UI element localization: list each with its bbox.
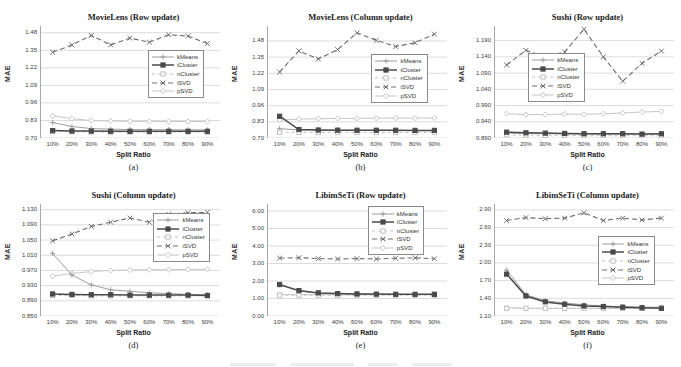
subplot-caption: (e) — [227, 338, 454, 350]
y-tick-label: 0.970 — [22, 267, 37, 273]
y-axis-label: MAE — [0, 204, 14, 316]
legend-item-kMeans: kMeans — [375, 57, 422, 66]
y-tick-label: 1.09 — [252, 86, 264, 92]
legend-marker-nCluster — [152, 70, 174, 78]
y-axis-label: MAE — [454, 26, 468, 138]
x-tick-label: 90% — [650, 319, 672, 325]
y-tick-column: 0.8900.9400.9901.0401.0901.1401.190 — [468, 26, 494, 138]
y-tick-label: 0.940 — [476, 118, 491, 124]
y-tick-label: 2.00 — [252, 278, 264, 284]
legend-item-iSVD: iSVD — [152, 78, 199, 87]
y-tick-label: 2.00 — [479, 259, 491, 265]
legend-marker-nCluster — [375, 74, 397, 82]
y-tick-label: 1.10 — [479, 313, 491, 319]
legend-item-kMeans: kMeans — [532, 56, 579, 65]
y-tick-label: 1.70 — [479, 277, 491, 283]
x-axis-label: Split Ratio — [0, 327, 227, 338]
plot-area: kMeansiClusternClusteriSVDpSVD — [40, 26, 220, 138]
legend-item-pSVD: pSVD — [602, 274, 649, 283]
legend-label: iCluster — [557, 65, 577, 73]
x-axis-label: Split Ratio — [454, 149, 681, 160]
legend-item-iCluster: iCluster — [602, 248, 649, 257]
x-tick-row: 10%20%30%40%50%60%70%80%90% — [494, 138, 681, 149]
legend-marker-iSVD — [157, 242, 179, 250]
y-tick-label: 2.90 — [479, 206, 491, 212]
subplot-f: LibimSeTi (Column update)MAE1.101.401.70… — [454, 182, 681, 360]
y-tick-label: 1.35 — [25, 47, 37, 53]
legend-marker-iCluster — [375, 66, 397, 74]
plot-area: kMeansiClusternClusteriSVDpSVD — [494, 204, 674, 316]
legend-label: pSVD — [182, 251, 198, 259]
legend-marker-iSVD — [152, 79, 174, 87]
subplot-b: MovieLens (Column update)MAE0.700.830.96… — [227, 4, 454, 182]
legend-marker-kMeans — [375, 57, 397, 65]
legend-item-iCluster: iCluster — [157, 225, 204, 234]
legend-item-nCluster: nCluster — [157, 233, 204, 242]
legend-marker-pSVD — [602, 274, 624, 282]
legend-item-iCluster: iCluster — [152, 61, 199, 70]
y-axis-label: MAE — [227, 26, 241, 138]
legend-item-pSVD: pSVD — [372, 244, 419, 253]
y-tick-label: 1.130 — [22, 206, 37, 212]
y-axis-label: MAE — [227, 204, 241, 316]
legend-item-iCluster: iCluster — [532, 64, 579, 73]
y-tick-label: 5.00 — [252, 225, 264, 231]
plot-area: kMeansiClusternClusteriSVDpSVD — [40, 204, 220, 316]
y-tick-label: 0.00 — [252, 313, 264, 319]
legend-label: iCluster — [400, 66, 420, 74]
y-tick-label: 1.010 — [22, 252, 37, 258]
x-tick-row: 10%20%30%40%50%60%70%80%90% — [494, 316, 681, 327]
x-tick-label: 90% — [650, 141, 672, 147]
legend-item-nCluster: nCluster — [375, 74, 422, 83]
y-tick-label: 2.60 — [479, 224, 491, 230]
x-tick-label: 90% — [196, 141, 218, 147]
x-axis-label: Split Ratio — [0, 149, 227, 160]
legend-marker-kMeans — [157, 216, 179, 224]
subplot-caption: (f) — [454, 338, 681, 350]
x-tick-row: 10%20%30%40%50%60%70%80%90% — [40, 316, 227, 327]
y-tick-label: 0.96 — [252, 102, 264, 108]
chart-title: LibimSeTi (Row update) — [227, 182, 454, 204]
x-tick-row: 10%20%30%40%50%60%70%80%90% — [267, 138, 454, 149]
x-tick-label: 90% — [196, 319, 218, 325]
y-tick-label: 1.09 — [25, 82, 37, 88]
legend-item-nCluster: nCluster — [602, 257, 649, 266]
plot-area: kMeansiClusternClusteriSVDpSVD — [267, 26, 447, 138]
legend-label: iCluster — [182, 225, 202, 233]
legend-marker-pSVD — [157, 251, 179, 259]
y-tick-label: 1.35 — [252, 54, 264, 60]
subplot-caption: (d) — [0, 338, 227, 350]
legend-label: nCluster — [400, 74, 422, 82]
legend-item-pSVD: pSVD — [375, 91, 422, 100]
x-tick-label: 90% — [423, 319, 445, 325]
chart-title: MovieLens (Row update) — [0, 4, 227, 26]
subplot-e: LibimSeTi (Row update)MAE0.001.002.003.0… — [227, 182, 454, 360]
y-tick-label: 0.83 — [252, 118, 264, 124]
y-tick-label: 1.48 — [252, 37, 264, 43]
legend-label: kMeans — [397, 210, 418, 218]
legend-label: iSVD — [177, 79, 191, 87]
legend-label: nCluster — [177, 70, 199, 78]
y-tick-label: 0.890 — [476, 135, 491, 141]
paper-figure-page: { "figure": { "ylabel": "MAE", "xlabel":… — [0, 0, 681, 367]
legend-item-kMeans: kMeans — [602, 239, 649, 248]
y-axis-label-text: MAE — [458, 51, 465, 97]
y-tick-label: 1.040 — [476, 86, 491, 92]
legend-marker-nCluster — [602, 257, 624, 265]
y-tick-column: 0.700.830.961.091.221.351.48 — [241, 26, 267, 138]
legend-label: iSVD — [557, 82, 571, 90]
legend: kMeansiClusternClusteriSVDpSVD — [153, 213, 209, 262]
y-tick-label: 1.00 — [252, 295, 264, 301]
y-tick-label: 1.48 — [25, 29, 37, 35]
chart-title: MovieLens (Column update) — [227, 4, 454, 26]
legend-label: kMeans — [177, 53, 198, 61]
legend-marker-pSVD — [152, 87, 174, 95]
legend-label: nCluster — [557, 73, 579, 81]
y-tick-label: 2.30 — [479, 242, 491, 248]
x-tick-label: 90% — [423, 141, 445, 147]
legend-label: iSVD — [397, 235, 411, 243]
legend-item-kMeans: kMeans — [157, 216, 204, 225]
y-tick-label: 0.990 — [476, 102, 491, 108]
legend-label: iCluster — [627, 248, 647, 256]
y-tick-label: 1.190 — [476, 37, 491, 43]
